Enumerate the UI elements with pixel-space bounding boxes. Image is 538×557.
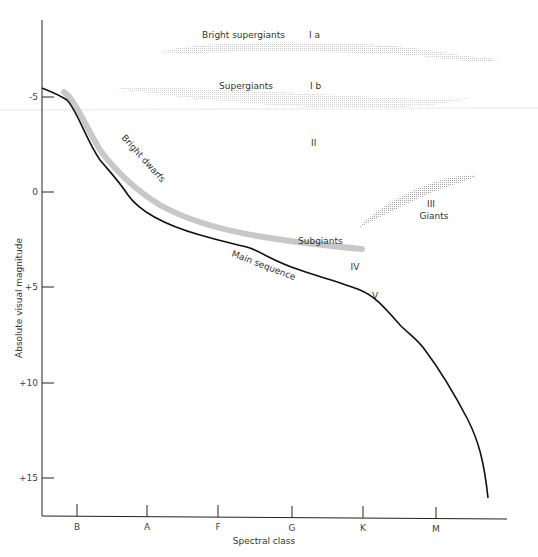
bright-supergiants-label: Bright supergiants (202, 30, 285, 40)
class-v-label: V (372, 291, 379, 301)
subgiants-label: Subgiants (298, 236, 343, 246)
y-axis-label: Absolute visual magnitude (14, 238, 24, 358)
x-tick-label: B (74, 522, 80, 532)
y-tick-label: 0 (32, 187, 38, 197)
x-axis-label: Spectral class (233, 536, 296, 546)
x-tick-label: F (215, 522, 220, 532)
giants-label: Giants (420, 211, 449, 221)
class-iii-label: III (427, 199, 435, 209)
supergiants-band (115, 88, 470, 108)
hr-diagram: -5 0 +5 +10 +15 B A F G K M Spectral cla… (0, 0, 538, 557)
bright-supergiants-band (158, 42, 500, 61)
x-tick-label: G (289, 523, 296, 533)
supergiants-label: Supergiants (219, 81, 273, 91)
y-ticks (42, 97, 54, 478)
y-tick-label: +5 (25, 282, 38, 292)
class-iv-label: IV (351, 262, 361, 272)
x-axis (42, 516, 507, 519)
class-ia-label: I a (309, 30, 320, 40)
x-tick-label: A (144, 522, 151, 532)
giants-band (358, 175, 477, 228)
x-tick-label: K (360, 523, 367, 533)
y-tick-label: +15 (19, 473, 38, 483)
y-tick-label: -5 (29, 92, 38, 102)
class-ii-label: II (311, 138, 316, 148)
main-sequence-curve (42, 88, 488, 498)
x-tick-label: M (432, 524, 440, 534)
class-ib-label: I b (310, 81, 322, 91)
y-tick-label: +10 (19, 378, 38, 388)
